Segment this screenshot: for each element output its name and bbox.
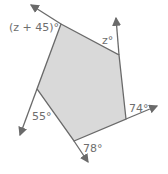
label-bottom: 78°: [83, 142, 103, 155]
label-top-right: z°: [102, 34, 113, 47]
label-top-left: (z + 45)°: [9, 21, 59, 34]
ray-top-right: [116, 18, 119, 55]
label-left: 55°: [32, 110, 52, 123]
pentagon-diagram: (z + 45)° z° 74° 78° 55°: [0, 0, 168, 174]
label-right: 74°: [129, 102, 149, 115]
